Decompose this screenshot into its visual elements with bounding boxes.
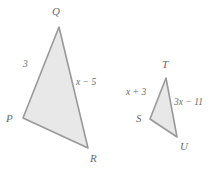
vertex-label-r: R: [90, 153, 97, 164]
geometry-figure: Q P R 3 x − 5 T S U x + 3 3x − 11: [0, 0, 222, 170]
vertex-label-u: U: [180, 141, 188, 152]
side-label-tu: 3x − 11: [174, 98, 203, 108]
triangles-canvas: [0, 0, 222, 170]
vertex-label-s: S: [136, 113, 142, 124]
vertex-label-t: T: [162, 59, 168, 70]
triangle-pqr: [23, 27, 88, 148]
triangle-stu: [150, 78, 177, 137]
vertex-label-q: Q: [52, 6, 60, 17]
vertex-label-p: P: [6, 113, 13, 124]
side-label-st: x + 3: [126, 88, 146, 98]
side-label-pq: 3: [23, 60, 28, 70]
side-label-qr: x − 5: [76, 78, 96, 88]
